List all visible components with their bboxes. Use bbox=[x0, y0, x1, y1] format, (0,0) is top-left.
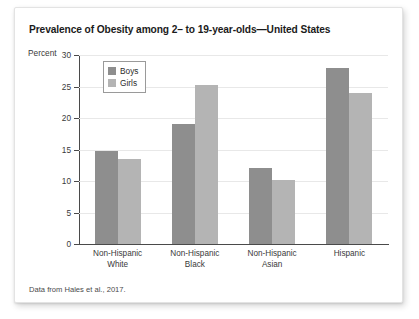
legend-label-boys: Boys bbox=[120, 66, 138, 76]
bar-girls-non-hispanic-white bbox=[118, 159, 141, 244]
y-axis-tick bbox=[74, 118, 79, 119]
x-axis-line bbox=[79, 244, 389, 245]
chart-legend: Boys Girls bbox=[103, 61, 146, 93]
legend-swatch-girls-icon bbox=[108, 79, 116, 87]
x-axis-label-line: Non-Hispanic bbox=[152, 249, 238, 260]
bar-boys-non-hispanic-asian bbox=[249, 168, 272, 244]
bar-girls-non-hispanic-asian bbox=[272, 180, 295, 244]
y-axis-tick-label: 25 bbox=[45, 82, 71, 92]
y-axis-tick-label: 30 bbox=[45, 50, 71, 60]
bar-boys-hispanic bbox=[326, 68, 349, 244]
y-axis-tick-label: 20 bbox=[45, 113, 71, 123]
x-axis-label-line: Hispanic bbox=[306, 249, 392, 260]
y-axis-tick bbox=[74, 213, 79, 214]
bar-boys-non-hispanic-white bbox=[95, 151, 118, 244]
y-axis-tick-label: 0 bbox=[45, 239, 71, 249]
x-axis-label-line: Black bbox=[152, 260, 238, 271]
legend-swatch-boys-icon bbox=[108, 67, 116, 75]
x-axis-label-line: White bbox=[75, 260, 161, 271]
y-axis-tick bbox=[74, 55, 79, 56]
y-axis-tick bbox=[74, 181, 79, 182]
y-axis-tick-label: 10 bbox=[45, 176, 71, 186]
x-axis-category-label: Non-HispanicBlack bbox=[152, 249, 238, 270]
legend-item-boys: Boys bbox=[108, 65, 138, 77]
bar-boys-non-hispanic-black bbox=[172, 124, 195, 244]
y-axis-tick-label: 15 bbox=[45, 145, 71, 155]
legend-item-girls: Girls bbox=[108, 77, 138, 89]
x-axis-category-label: Non-HispanicWhite bbox=[75, 249, 161, 270]
gridline bbox=[79, 55, 388, 56]
y-axis-tick-label: 5 bbox=[45, 208, 71, 218]
x-axis-category-label: Non-HispanicAsian bbox=[229, 249, 315, 270]
x-axis-category-label: Hispanic bbox=[306, 249, 392, 260]
source-note: Data from Hales et al., 2017. bbox=[29, 285, 126, 294]
page-title: Prevalence of Obesity among 2– to 19-yea… bbox=[29, 24, 330, 35]
legend-label-girls: Girls bbox=[120, 78, 137, 88]
y-axis-tick bbox=[74, 87, 79, 88]
x-axis-label-line: Non-Hispanic bbox=[75, 249, 161, 260]
y-axis-tick bbox=[74, 150, 79, 151]
x-axis-label-line: Non-Hispanic bbox=[229, 249, 315, 260]
y-axis-tick bbox=[74, 244, 79, 245]
bar-girls-non-hispanic-black bbox=[195, 85, 218, 244]
x-axis-label-line: Asian bbox=[229, 260, 315, 271]
figure-card: Prevalence of Obesity among 2– to 19-yea… bbox=[14, 7, 403, 303]
bar-girls-hispanic bbox=[349, 93, 372, 244]
